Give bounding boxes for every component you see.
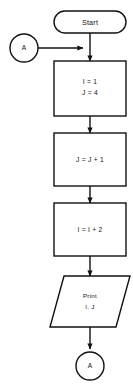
connector-out-label: A <box>88 362 93 369</box>
node-process-3[interactable]: I = I + 2 <box>54 203 126 256</box>
node-process-1[interactable]: I = 1 J = 4 <box>54 61 126 116</box>
node-process-2[interactable]: J = J + 1 <box>54 133 126 186</box>
node-connector-in[interactable]: A <box>10 34 38 62</box>
process-1-line-2: J = 4 <box>82 89 98 96</box>
start-label: Start <box>82 18 98 27</box>
node-connector-out[interactable]: A <box>76 352 104 380</box>
output-line-1: Print <box>83 292 97 299</box>
flowchart-canvas: Start A I = 1 J = 4 J = J + 1 I = I + 2 … <box>0 0 133 385</box>
connector-in-label: A <box>22 44 27 51</box>
node-start[interactable]: Start <box>54 11 126 33</box>
process-3-line-1: I = I + 2 <box>77 226 102 233</box>
process-1-line-1: I = 1 <box>83 78 98 85</box>
output-parallelogram-shape <box>50 276 130 327</box>
process-2-line-1: J = J + 1 <box>76 156 104 163</box>
output-line-2: I, J <box>85 303 94 310</box>
flowchart-diagram: Start A I = 1 J = 4 J = J + 1 I = I + 2 … <box>0 0 133 385</box>
node-output[interactable]: Print I, J <box>50 276 130 327</box>
